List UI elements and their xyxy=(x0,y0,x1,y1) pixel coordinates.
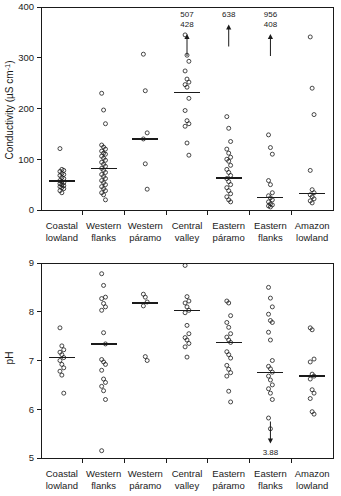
data-point xyxy=(227,325,231,329)
data-point xyxy=(225,374,229,378)
data-point xyxy=(312,391,316,395)
offscale-label: 638 xyxy=(222,10,236,19)
category-label-line: lowland xyxy=(46,480,78,491)
category-label-line: lowland xyxy=(46,232,78,243)
data-point xyxy=(270,359,274,363)
category-label-line: Western xyxy=(128,220,163,231)
data-point xyxy=(187,299,191,303)
data-point xyxy=(310,86,314,90)
data-point xyxy=(268,146,272,150)
ph-axis-title-text: pH xyxy=(4,352,15,365)
data-point xyxy=(187,341,191,345)
arrow-head xyxy=(184,34,189,39)
data-point xyxy=(225,147,229,151)
data-point xyxy=(267,133,271,137)
data-point xyxy=(268,391,272,395)
data-point xyxy=(229,183,233,187)
data-point xyxy=(183,263,187,267)
data-point xyxy=(308,35,312,39)
data-point xyxy=(100,91,104,95)
data-point xyxy=(100,297,104,301)
data-point xyxy=(229,314,233,318)
category-label-1: Coastallowland xyxy=(46,220,78,243)
data-point xyxy=(62,391,66,395)
category-label-line: Eastern xyxy=(254,468,287,479)
category-label-line: Amazon xyxy=(295,468,330,479)
data-point xyxy=(270,305,274,309)
category-label-line: lowland xyxy=(296,232,328,243)
data-point xyxy=(270,383,274,387)
data-point xyxy=(227,151,231,155)
category-label-2: Westernflanks xyxy=(86,468,121,491)
data-point xyxy=(143,89,147,93)
data-point xyxy=(100,368,104,372)
category-label-line: lowland xyxy=(296,480,328,491)
data-point xyxy=(100,272,104,276)
group-5 xyxy=(216,115,242,204)
arrow-head xyxy=(268,34,273,39)
category-label-line: flanks xyxy=(258,480,283,491)
data-point xyxy=(267,374,271,378)
conductivity-axis-title: Conductivity (µS cm-1) xyxy=(3,60,16,159)
data-point xyxy=(145,359,149,363)
conductivity-ytick-label: 300 xyxy=(18,52,34,63)
data-point xyxy=(58,359,62,363)
data-point xyxy=(62,366,66,370)
data-point xyxy=(183,69,187,73)
data-point xyxy=(308,377,312,381)
offscale-annotation: 507428 xyxy=(180,10,194,56)
data-point xyxy=(103,122,107,126)
data-point xyxy=(308,360,312,364)
category-label-line: Amazon xyxy=(295,220,330,231)
data-point xyxy=(229,356,233,360)
category-label-5: Easternpáramo xyxy=(212,468,245,491)
category-label-3: Westernpáramo xyxy=(128,220,163,243)
data-point xyxy=(102,108,106,112)
category-label-7: Amazonlowland xyxy=(295,468,330,491)
data-point xyxy=(183,301,187,305)
category-label-3: Westernpáramo xyxy=(128,468,163,491)
group-4 xyxy=(174,263,200,359)
offscale-label: 408 xyxy=(264,20,278,29)
data-point xyxy=(100,384,104,388)
data-point xyxy=(270,152,274,156)
data-point xyxy=(103,380,107,384)
ph-ytick-label: 9 xyxy=(29,257,34,268)
offscale-annotation: 638 xyxy=(222,10,236,47)
category-label-line: Eastern xyxy=(212,468,245,479)
category-label-line: páramo xyxy=(129,480,161,491)
data-point xyxy=(62,348,66,352)
data-point xyxy=(60,344,64,348)
ph-ytick-label: 6 xyxy=(29,404,34,415)
data-point xyxy=(102,331,106,335)
offscale-label: 3.88 xyxy=(263,448,279,457)
data-point xyxy=(229,155,233,159)
scatter-figure: 0100200300400 507428638956408 Coastallow… xyxy=(0,0,341,496)
data-point xyxy=(312,357,316,361)
data-point xyxy=(225,363,229,367)
data-point xyxy=(143,295,147,299)
conductivity-ytick-label: 0 xyxy=(29,204,34,215)
category-label-5: Easternpáramo xyxy=(212,220,245,243)
ph-ytick-label: 7 xyxy=(29,355,34,366)
category-label-4: Centralvalley xyxy=(172,468,203,491)
data-point xyxy=(229,192,233,196)
category-label-6: Easternflanks xyxy=(254,220,287,243)
data-point xyxy=(185,295,189,299)
data-point xyxy=(100,449,104,453)
data-point xyxy=(270,398,274,402)
category-label-line: Coastal xyxy=(46,468,78,479)
category-label-line: flanks xyxy=(91,232,116,243)
conductivity-plot-area: 0100200300400 507428638956408 Coastallow… xyxy=(0,0,341,248)
group-3 xyxy=(132,292,158,362)
conductivity-ytick-label: 100 xyxy=(18,154,34,165)
group-7 xyxy=(299,35,325,205)
data-point xyxy=(183,311,187,315)
category-label-line: Central xyxy=(172,468,203,479)
category-label-2: Westernflanks xyxy=(86,220,121,243)
group-2 xyxy=(91,91,117,202)
offscale-annotation: 3.88 xyxy=(263,422,279,458)
ph-ytick-label: 5 xyxy=(29,452,34,463)
data-point xyxy=(103,295,107,299)
ph-axis-title: pH xyxy=(4,352,15,365)
